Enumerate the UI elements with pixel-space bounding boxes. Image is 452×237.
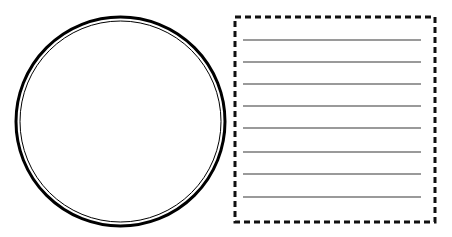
dashed-note-box	[235, 17, 435, 222]
drawing	[0, 0, 452, 237]
note-lines	[243, 40, 421, 197]
canvas	[0, 0, 452, 237]
circle-outer-ring	[16, 17, 225, 226]
circle-inner-ring	[20, 21, 221, 222]
